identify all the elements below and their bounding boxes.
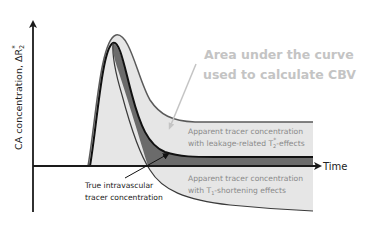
x-axis-label: Time <box>322 161 347 172</box>
cbv-concentration-time-diagram: CA concentration, ΔR2* Time Area under t… <box>0 0 366 228</box>
leakage-label-line1: Apparent tracer concentration <box>188 127 303 136</box>
true-label-line2: tracer concentration <box>85 193 163 202</box>
cbv-annotation-line2: used to calculate CBV <box>203 67 356 82</box>
cbv-annotation-arrow <box>170 64 196 127</box>
cbv-annotation-line1: Area under the curve <box>204 47 354 62</box>
t1-label-line2: with T1-shortening effects <box>188 186 286 196</box>
y-axis-label: CA concentration, ΔR2* <box>11 45 26 150</box>
true-label-line1: True intravascular <box>84 181 154 190</box>
t1-label-line1: Apparent tracer concentration <box>188 174 303 183</box>
